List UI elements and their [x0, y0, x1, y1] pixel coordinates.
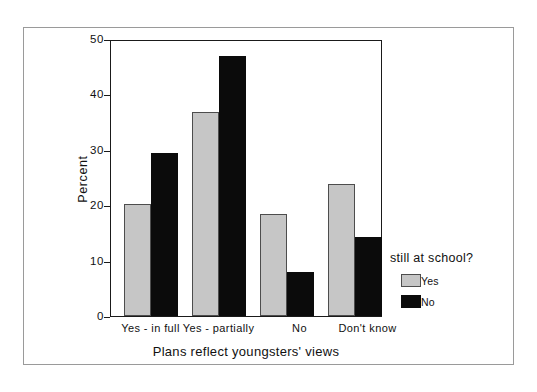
figure: Percent 50 40 30 20 10 0	[0, 0, 537, 392]
y-tick-mark-0	[104, 317, 110, 318]
legend-label-yes: Yes	[421, 275, 439, 287]
bar-yes-in-full-no	[151, 153, 178, 316]
x-axis-title: Plans reflect youngsters' views	[110, 344, 382, 359]
figure-border: Percent 50 40 30 20 10 0	[23, 27, 514, 365]
y-tick-label-20: 20	[80, 200, 104, 212]
legend-swatch-yes-icon	[401, 274, 421, 287]
bar-dont-know-yes	[328, 184, 355, 316]
plot-area	[110, 40, 382, 317]
bar-yes-partially-no	[219, 56, 246, 316]
y-tick-label-30: 30	[80, 145, 104, 157]
bar-yes-in-full-yes	[124, 204, 151, 316]
y-tick-label-10: 10	[80, 256, 104, 268]
legend-item-no: No	[401, 295, 510, 308]
legend-title: still at school?	[390, 251, 510, 265]
legend-swatch-no-icon	[401, 295, 421, 308]
x-tick-label-dont-know: Don't know	[327, 323, 408, 334]
bars-container	[111, 41, 381, 316]
y-tick-label-0: 0	[80, 311, 104, 323]
legend-label-no: No	[421, 296, 435, 308]
y-tick-label-50: 50	[80, 34, 104, 46]
legend: still at school? Yes No	[390, 251, 510, 316]
bar-no-yes	[260, 214, 287, 316]
bar-yes-partially-yes	[192, 112, 219, 316]
x-tick-label-yes-partially: Yes - partially	[178, 323, 259, 334]
legend-item-yes: Yes	[401, 274, 510, 287]
bar-dont-know-no	[355, 237, 382, 316]
y-tick-label-40: 40	[80, 89, 104, 101]
bar-no-no	[287, 272, 314, 316]
